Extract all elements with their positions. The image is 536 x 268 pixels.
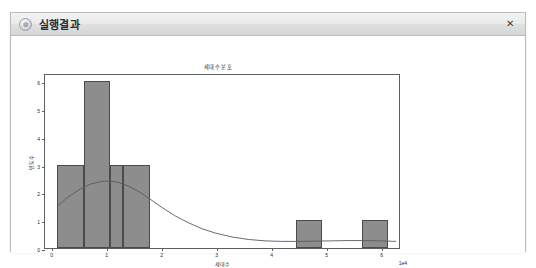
x-tick-label: 0 [50,252,53,258]
window-titlebar[interactable]: ◍ 실행결과 ✕ [11,13,525,36]
x-tick-mark [52,248,53,251]
window-body: 세대수 분포 0123456 0123456 빈도수 세대수 1e4 [11,36,525,253]
x-tick-label: 4 [270,252,273,258]
matplotlib-figure: 세대수 분포 0123456 0123456 빈도수 세대수 1e4 [11,36,525,253]
y-tick-mark [42,222,45,223]
window-title: 실행결과 [39,16,80,32]
x-tick-label: 1 [105,252,108,258]
x-tick-label: 3 [215,252,218,258]
y-tick-label: 1 [37,219,40,225]
y-tick-mark [42,250,45,251]
x-tick-mark [162,248,163,251]
y-tick-label: 2 [37,191,40,197]
result-window: ◍ 실행결과 ✕ 세대수 분포 0123456 0123456 빈도수 세대수 … [10,12,526,252]
x-tick-label: 5 [325,252,328,258]
y-axis-label: 빈도수 [27,154,34,169]
chart-title: 세대수 분포 [11,63,425,70]
x-axis-label: 세대수 [45,260,399,267]
y-tick-mark [42,167,45,168]
y-tick-mark [42,83,45,84]
y-tick-label: 0 [37,247,40,253]
x-tick-mark [382,248,383,251]
y-tick-mark [42,194,45,195]
x-tick-mark [327,248,328,251]
x-axis-offset-text: 1e4 [399,260,407,266]
y-tick-label: 4 [37,136,40,142]
y-tick-label: 5 [37,108,40,114]
y-tick-label: 3 [37,164,40,170]
x-tick-mark [272,248,273,251]
x-tick-mark [107,248,108,251]
x-tick-label: 6 [380,252,383,258]
chart-axes: 0123456 0123456 빈도수 세대수 1e4 [44,74,400,249]
x-tick-mark [217,248,218,251]
y-tick-mark [42,139,45,140]
kde-density-curve [45,75,399,248]
app-circle-icon: ◍ [19,18,32,31]
y-tick-label: 6 [37,80,40,86]
y-tick-mark [42,111,45,112]
close-icon[interactable]: ✕ [502,16,518,31]
x-tick-label: 2 [160,252,163,258]
